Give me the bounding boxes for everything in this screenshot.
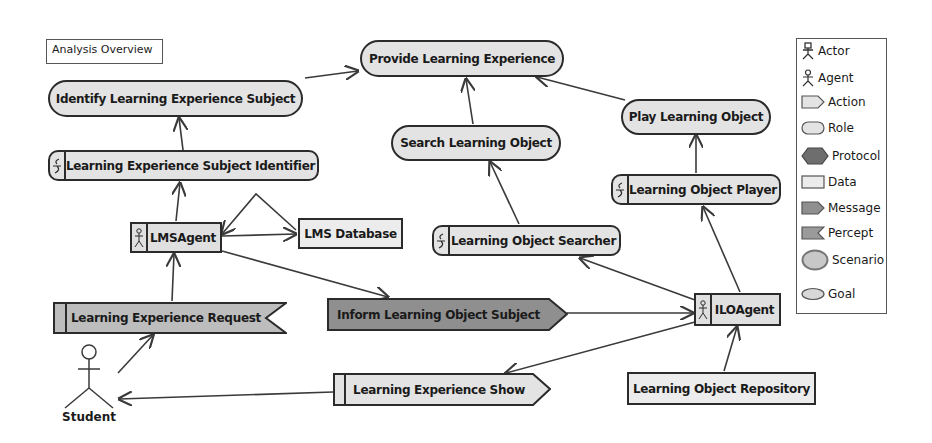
goal-icon bbox=[801, 287, 825, 301]
edge-play-provide bbox=[537, 77, 625, 100]
legend-item-data: Data bbox=[801, 175, 857, 189]
legend-label: Role bbox=[828, 121, 854, 135]
scenario-icon bbox=[801, 249, 829, 271]
action-learning-experience-show[interactable]: Learning Experience Show bbox=[333, 373, 551, 406]
edge-search-provide bbox=[466, 79, 473, 124]
goal-provide-learning-experience[interactable]: Provide Learning Experience bbox=[360, 40, 564, 77]
legend-item-action: Action bbox=[801, 95, 866, 109]
agent-lmsagent[interactable]: LMSAgent bbox=[130, 222, 222, 253]
edge-lmsagent-ilos bbox=[222, 251, 388, 297]
data-label: Learning Object Repository bbox=[633, 382, 810, 396]
role-label: Learning Object Searcher bbox=[451, 234, 616, 248]
legend-item-actor: Actor bbox=[801, 42, 850, 60]
message-label: Inform Learning Object Subject bbox=[331, 298, 546, 331]
agent-label: LMSAgent bbox=[150, 231, 216, 245]
edge-lor-iloagent bbox=[724, 327, 737, 371]
percept-learning-experience-request[interactable]: Learning Experience Request bbox=[53, 302, 287, 334]
legend-item-message: Message bbox=[801, 201, 881, 215]
percept-icon bbox=[801, 226, 825, 240]
edge-lmsagent-lmsdb bbox=[222, 234, 296, 236]
role-label: Learning Experience Subject Identifier bbox=[66, 159, 315, 173]
role-learning-experience-subject-identifier[interactable]: Learning Experience Subject Identifier bbox=[48, 150, 319, 181]
edge-los-search bbox=[490, 162, 519, 224]
legend-item-protocol: Protocol bbox=[801, 147, 880, 165]
actor-icon bbox=[801, 42, 815, 60]
role-learning-object-player[interactable]: Learning Object Player bbox=[611, 174, 781, 205]
edge-iloagent-lop bbox=[703, 207, 740, 292]
legend-label: Agent bbox=[818, 71, 854, 85]
agent-iloagent[interactable]: ILOAgent bbox=[694, 293, 781, 326]
role-icon bbox=[613, 176, 629, 203]
legend-label: Protocol bbox=[832, 149, 880, 163]
role-label: Learning Object Player bbox=[629, 183, 777, 197]
legend-item-goal: Goal bbox=[801, 287, 855, 301]
action-label: Learning Experience Show bbox=[349, 373, 529, 406]
goal-label: Provide Learning Experience bbox=[369, 52, 555, 66]
goal-play-learning-object[interactable]: Play Learning Object bbox=[621, 99, 771, 135]
legend-label: Message bbox=[828, 201, 881, 215]
action-icon bbox=[801, 95, 825, 109]
message-inform-learning-object-subject[interactable]: Inform Learning Object Subject bbox=[327, 298, 568, 331]
protocol-icon bbox=[801, 147, 829, 165]
legend-label: Scenario bbox=[832, 253, 884, 267]
role-icon bbox=[434, 227, 450, 254]
edge-lesi-identify bbox=[179, 118, 183, 150]
agent-label: ILOAgent bbox=[715, 303, 774, 317]
data-label: LMS Database bbox=[304, 227, 397, 241]
edge-student-ler bbox=[118, 335, 153, 373]
agent-icon bbox=[696, 295, 712, 324]
legend-item-role: Role bbox=[801, 121, 854, 135]
goal-label: Play Learning Object bbox=[629, 110, 763, 124]
goal-label: Identify Learning Experience Subject bbox=[56, 92, 295, 106]
percept-label: Learning Experience Request bbox=[71, 302, 261, 334]
legend: Actor Agent Action Role Protocol Data Me… bbox=[796, 38, 887, 314]
legend-label: Goal bbox=[828, 287, 855, 301]
legend-item-agent: Agent bbox=[801, 69, 854, 87]
legend-label: Percept bbox=[828, 226, 873, 240]
goal-search-learning-object[interactable]: Search Learning Object bbox=[391, 125, 561, 161]
agent-icon bbox=[132, 224, 148, 251]
actor-student[interactable]: Student bbox=[62, 342, 116, 432]
data-lms-database[interactable]: LMS Database bbox=[298, 218, 403, 249]
diagram-canvas: Analysis Overview Provide Learning Exper… bbox=[0, 0, 932, 443]
legend-label: Actor bbox=[818, 44, 850, 58]
role-icon bbox=[801, 121, 825, 135]
legend-item-scenario: Scenario bbox=[801, 249, 884, 271]
legend-label: Action bbox=[828, 95, 866, 109]
data-icon bbox=[801, 175, 825, 189]
role-learning-object-searcher[interactable]: Learning Object Searcher bbox=[432, 225, 621, 256]
actor-icon bbox=[62, 342, 116, 412]
diagram-title: Analysis Overview bbox=[46, 39, 163, 64]
edge-lmsagent-lesi bbox=[176, 183, 180, 221]
edge-lmsdb-lmsagent bbox=[222, 194, 296, 234]
agent-icon bbox=[801, 69, 815, 87]
edge-identify-provide bbox=[305, 71, 358, 78]
edge-ler-lmsagent bbox=[172, 254, 174, 301]
legend-item-percept: Percept bbox=[801, 226, 873, 240]
message-icon bbox=[801, 201, 825, 215]
edge-les-student bbox=[119, 392, 333, 399]
legend-label: Data bbox=[828, 175, 857, 189]
data-learning-object-repository[interactable]: Learning Object Repository bbox=[627, 372, 816, 405]
edge-iloagent-los bbox=[580, 258, 695, 300]
goal-identify-learning-experience-subject[interactable]: Identify Learning Experience Subject bbox=[48, 80, 303, 117]
actor-label: Student bbox=[62, 410, 116, 424]
role-icon bbox=[50, 152, 66, 179]
goal-label: Search Learning Object bbox=[400, 136, 552, 150]
